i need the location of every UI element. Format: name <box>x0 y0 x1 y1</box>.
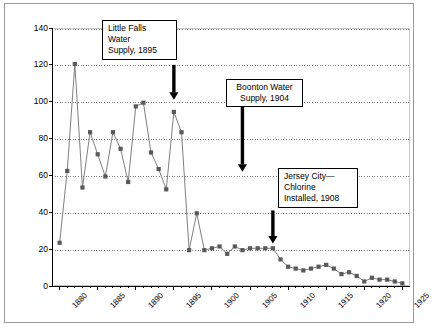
figure-frame: Typhoid Death Rate per 100,000 People 14… <box>4 3 414 323</box>
annotation-arrow-boonton <box>238 105 247 171</box>
annotation-boonton: Boonton Water Supply, 1904 <box>226 79 303 107</box>
y-tick-label: 120 <box>14 60 48 69</box>
y-tick-label: 80 <box>14 134 48 143</box>
y-tick-label: 100 <box>14 97 48 106</box>
y-tick-label: 0 <box>14 282 48 291</box>
axes-canvas <box>5 4 415 324</box>
annotation-arrow-little-falls <box>169 65 178 100</box>
annotation-little-falls: Little Falls Water Supply, 1895 <box>102 20 177 60</box>
x-tick-label: 1925 <box>413 291 432 310</box>
y-tick-label: 40 <box>14 208 48 217</box>
annotation-jersey-city-chlorine: Jersey City— Chlorine Installed, 1908 <box>278 168 358 208</box>
y-tick-label: 60 <box>14 171 48 180</box>
y-tick-label: 140 <box>14 24 48 33</box>
y-tick-label: 20 <box>14 245 48 254</box>
annotation-arrow-jersey-city-chlorine <box>268 210 277 243</box>
